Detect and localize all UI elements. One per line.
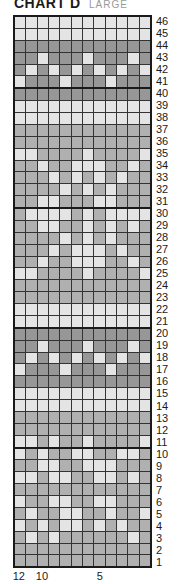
chart-cell (83, 555, 94, 566)
chart-cell (60, 209, 71, 220)
row-label: 40 (156, 87, 168, 99)
chart-cell (49, 484, 60, 495)
chart-cell (117, 400, 128, 411)
chart-cell (38, 376, 49, 387)
chart-cell (26, 353, 37, 364)
chart-cell (83, 245, 94, 256)
chart-cell (60, 544, 71, 555)
chart-cell (140, 245, 150, 256)
chart-cell (106, 424, 117, 435)
chart-cell (117, 53, 128, 64)
chart-cell (140, 484, 150, 495)
row-label: 36 (156, 135, 168, 147)
chart-cell (106, 89, 117, 100)
chart-cell (83, 41, 94, 52)
chart-cell (140, 161, 150, 172)
chart-cell (106, 113, 117, 124)
chart-cell (72, 316, 83, 327)
chart-cell (140, 532, 150, 543)
chart-cell (26, 508, 37, 519)
chart-cell (117, 41, 128, 52)
chart-cell (140, 101, 150, 112)
chart-cell (94, 29, 105, 40)
chart-cell (15, 125, 26, 136)
chart-cell (128, 555, 139, 566)
chart-row-10 (15, 449, 150, 461)
chart-cell (49, 101, 60, 112)
chart-cell (94, 65, 105, 76)
chart-cell (83, 149, 94, 160)
chart-cell (49, 257, 60, 268)
chart-cell (26, 89, 37, 100)
chart-cell (38, 149, 49, 160)
chart-cell (72, 101, 83, 112)
chart-cell (38, 555, 49, 566)
chart-row-3 (15, 532, 150, 544)
chart-cell (60, 532, 71, 543)
chart-cell (38, 353, 49, 364)
chart-cell (49, 555, 60, 566)
chart-cell (140, 496, 150, 507)
row-label: 12 (156, 424, 168, 436)
chart-cell (38, 161, 49, 172)
chart-cell (117, 149, 128, 160)
chart-cell (49, 388, 60, 399)
chart-cell (83, 101, 94, 112)
chart-cell (140, 424, 150, 435)
chart-row-18 (15, 353, 150, 365)
chart-cell (49, 65, 60, 76)
chart-cell (128, 280, 139, 291)
chart-cell (94, 161, 105, 172)
chart-cell (106, 496, 117, 507)
chart-cell (26, 436, 37, 447)
chart-cell (72, 268, 83, 279)
chart-cell (26, 209, 37, 220)
chart-cell (49, 496, 60, 507)
chart-cell (38, 268, 49, 279)
chart-cell (140, 304, 150, 315)
chart-row-17 (15, 364, 150, 376)
chart-cell (26, 364, 37, 375)
chart-cell (83, 209, 94, 220)
chart-cell (26, 449, 37, 460)
chart-cell (128, 29, 139, 40)
chart-cell (106, 196, 117, 207)
chart-cell (49, 233, 60, 244)
chart-cell (72, 341, 83, 352)
chart-cell (94, 508, 105, 519)
chart-cell (60, 125, 71, 136)
chart-cell (49, 376, 60, 387)
chart-cell (117, 508, 128, 519)
chart-cell (94, 388, 105, 399)
chart-row-40 (15, 89, 150, 101)
chart-cell (83, 125, 94, 136)
chart-cell (128, 53, 139, 64)
row-label: 34 (156, 159, 168, 171)
chart-cell (26, 245, 37, 256)
chart-cell (72, 329, 83, 340)
chart-cell (15, 376, 26, 387)
chart-cell (94, 341, 105, 352)
chart-cell (60, 280, 71, 291)
row-label: 14 (156, 400, 168, 412)
chart-cell (106, 280, 117, 291)
chart-cell (38, 137, 49, 148)
chart-cell (140, 280, 150, 291)
chart-cell (128, 508, 139, 519)
chart-cell (60, 353, 71, 364)
chart-cell (38, 412, 49, 423)
chart-cell (94, 544, 105, 555)
chart-cell (49, 29, 60, 40)
chart-cell (49, 209, 60, 220)
chart-cell (106, 364, 117, 375)
chart-cell (38, 113, 49, 124)
chart-cell (106, 412, 117, 423)
chart-cell (72, 196, 83, 207)
chart-cell (106, 233, 117, 244)
chart-cell (128, 388, 139, 399)
chart-cell (140, 436, 150, 447)
chart-cell (38, 424, 49, 435)
row-label: 20 (156, 327, 168, 339)
chart-cell (49, 196, 60, 207)
chart-cell (117, 544, 128, 555)
